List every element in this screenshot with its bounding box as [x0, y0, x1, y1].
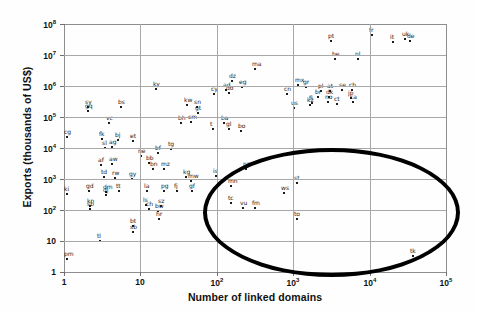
y-tick-label: 107 — [22, 50, 56, 61]
x-tick-mark — [217, 272, 218, 276]
data-point-label: de — [407, 33, 415, 39]
data-point — [146, 190, 148, 192]
data-point-label: af — [98, 157, 104, 163]
data-point-label: se — [339, 82, 346, 88]
x-tick-label: 104 — [350, 277, 390, 288]
data-point-label: kz — [307, 97, 314, 103]
data-point — [105, 194, 107, 196]
data-point-label: tg — [168, 141, 174, 147]
data-point — [111, 163, 113, 165]
data-point-label: pm — [64, 251, 74, 257]
data-point-label: ct — [334, 96, 340, 102]
data-point — [180, 122, 182, 124]
data-point-label: ma — [252, 61, 262, 67]
data-point — [103, 176, 105, 178]
data-point — [163, 168, 165, 170]
gridline-horizontal — [64, 148, 446, 149]
data-point-label: kw — [184, 97, 192, 103]
data-point — [228, 128, 230, 130]
data-point — [191, 190, 193, 192]
data-point — [185, 176, 187, 178]
data-point — [223, 122, 225, 124]
data-point — [330, 40, 332, 42]
data-point-label: sb — [130, 224, 137, 230]
data-point-label: bw — [155, 203, 164, 209]
data-point-label: t — [210, 121, 212, 127]
data-point — [231, 80, 233, 82]
data-point-label: ki — [64, 186, 69, 192]
data-point — [66, 136, 68, 138]
data-point — [213, 93, 215, 95]
data-point-label: gl — [226, 121, 231, 127]
x-tick-label: 102 — [197, 277, 237, 288]
data-point-label: pt — [328, 33, 334, 39]
x-tick-mark — [140, 272, 141, 276]
data-point-label: nl — [355, 51, 360, 57]
data-point — [334, 58, 336, 60]
data-point — [371, 34, 373, 36]
data-point-label: mz — [161, 161, 170, 167]
data-point-label: rw — [112, 170, 119, 176]
scatter-plot-figure: Exports (thousands of US$) Number of lin… — [0, 0, 477, 313]
data-point-label: cg — [64, 129, 71, 135]
data-point — [254, 68, 256, 70]
data-point-label: gd — [86, 183, 94, 189]
data-point-label: gt — [195, 105, 201, 111]
data-point — [336, 103, 338, 105]
data-point — [317, 96, 319, 98]
data-point-label: tt — [116, 183, 121, 189]
data-point — [286, 93, 288, 95]
data-point-label: ca — [350, 94, 357, 100]
data-point — [176, 190, 178, 192]
outlier-highlight-ellipse — [203, 148, 460, 277]
data-point-label: gf — [189, 183, 195, 189]
data-point-label: ch — [349, 82, 356, 88]
data-point — [409, 40, 411, 42]
data-point — [117, 139, 119, 141]
data-point — [100, 164, 102, 166]
data-point-label: fk — [99, 131, 105, 137]
data-point-label: it — [390, 34, 394, 40]
gridline-horizontal — [64, 86, 446, 87]
data-point — [197, 112, 199, 114]
data-point — [158, 218, 160, 220]
data-point — [87, 110, 89, 112]
x-tick-mark — [446, 272, 447, 276]
data-point-label: pg — [161, 183, 169, 189]
data-point — [190, 180, 192, 182]
data-point — [352, 101, 354, 103]
data-point-label: bj — [115, 132, 120, 138]
data-point — [163, 190, 165, 192]
x-tick-label: 105 — [426, 277, 466, 288]
x-axis-title: Number of linked domains — [64, 291, 446, 303]
y-tick-label: 102 — [22, 205, 56, 216]
gridline-horizontal — [64, 117, 446, 118]
y-tick-label: 103 — [22, 174, 56, 185]
data-point-label: fj — [174, 183, 178, 189]
x-tick-label: 103 — [273, 277, 313, 288]
data-point-label: dz — [229, 73, 236, 79]
data-point — [228, 92, 230, 94]
data-point-label: no — [325, 94, 332, 100]
y-tick-label: 104 — [22, 143, 56, 154]
data-point-label: bo — [238, 123, 245, 129]
data-point-label: la — [144, 183, 149, 189]
data-point — [327, 101, 329, 103]
data-point-label: gr — [303, 79, 309, 85]
data-point-label: et — [130, 133, 136, 139]
y-tick-label: 1 — [22, 267, 56, 277]
y-tick-mark — [60, 272, 65, 273]
data-point — [132, 140, 134, 142]
data-point-label: vc — [106, 115, 113, 121]
data-point — [155, 88, 157, 90]
data-point-label: sl — [102, 140, 107, 146]
data-point — [118, 190, 120, 192]
data-point-label: gq — [85, 103, 93, 109]
data-point — [341, 89, 343, 91]
data-point — [152, 168, 154, 170]
data-point — [157, 152, 159, 154]
data-point-label: eg — [239, 79, 247, 85]
data-point-label: dj — [103, 187, 108, 193]
data-point — [212, 128, 214, 130]
data-point-label: tl — [97, 233, 101, 239]
